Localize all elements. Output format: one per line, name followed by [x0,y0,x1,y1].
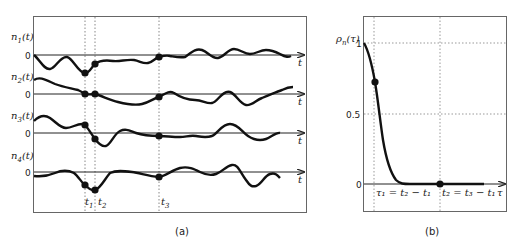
n1-label: n1(t) [11,31,34,45]
n1-t1-point [81,69,88,76]
n1-t3-point [155,53,162,60]
n4-t-axis-label: t [298,174,303,185]
n3-label: n3(t) [11,110,34,124]
n3-t2-point [91,135,98,142]
n4-t2-point [91,186,98,193]
ytick-05: 0.5 [346,110,360,120]
n3-curve [34,116,280,146]
panel-a: n1(t) n2(t) n3(t) n4(t) 0 0 0 0 t t t t … [11,17,307,238]
n2-t3-point [155,93,162,100]
figure: n1(t) n2(t) n3(t) n4(t) 0 0 0 0 t t t t … [0,0,519,244]
n2-zero-label: 0 [25,90,31,100]
n3-zero-label: 0 [25,129,31,139]
n1-t2-point [91,60,98,67]
tau1-point [371,78,378,85]
t1-label: t1 [85,196,94,210]
ytick-0: 0 [356,180,362,190]
panel-a-caption: (a) [175,226,189,237]
panel-b-caption: (b) [425,226,439,237]
n1-t-axis-label: t [298,57,303,68]
tau2-label: t₂ = t₃ − t₁ [442,187,496,198]
t3-label: t3 [161,196,170,210]
ytick-1: 1 [356,39,362,49]
n4-t1-point [81,181,88,188]
panel-a-frame [34,17,307,213]
tau-axis-label: τ [497,187,503,198]
n3-t-axis-label: t [298,135,303,146]
t2-label: t2 [98,196,107,210]
tau1-label: τ₁ = t₂ − t₁ [376,187,431,198]
n2-curve [34,78,293,105]
n2-t1-point [81,90,88,97]
n2-t-axis-label: t [298,96,303,107]
panel-b: ρn(τ) 1 0.5 0 τ₁ = t₂ − t₁ t₂ = t₃ − t₁ … [335,17,507,238]
n1-curve [34,49,291,73]
n4-label: n4(t) [11,150,34,164]
n3-t3-point [155,132,162,139]
n4-zero-label: 0 [25,168,31,178]
n2-t2-point [91,90,98,97]
n1-zero-label: 0 [25,51,31,61]
n2-label: n2(t) [11,71,34,85]
n4-t3-point [155,173,162,180]
n3-t1-point [81,121,88,128]
